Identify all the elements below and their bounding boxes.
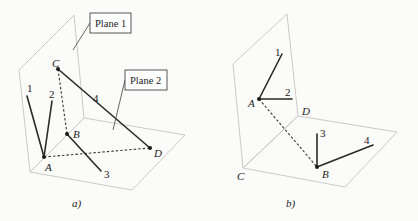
label-d: D [153,147,162,159]
point-d [148,146,152,150]
line-2 [44,101,52,157]
label-line-4: 4 [93,92,99,104]
label-line-1-b: 1 [275,46,281,58]
point-a [42,155,46,159]
label-line-3: 3 [104,168,110,180]
label-line-2-b: 2 [285,86,291,98]
dashed-line-a-d [44,148,150,157]
line-1 [27,96,44,157]
diagram-canvas: C B A D 1 2 3 4 Plane 1 Plane 2 a) A B C… [0,0,418,221]
point-a-b [257,97,261,101]
panel-b: A B C D 1 2 3 4 b) [233,14,397,210]
callout-plane-1: Plane 1 [95,18,126,29]
label-a-b: A [247,97,255,109]
line-4-b [317,145,373,167]
label-line-4-b: 4 [364,134,370,146]
caption-a: a) [72,197,82,210]
panel-a: C B A D 1 2 3 4 Plane 1 Plane 2 a) [19,13,185,210]
point-b [65,132,69,136]
callout-plane-2: Plane 2 [130,75,161,86]
label-line-3-b: 3 [320,127,326,139]
label-a: A [44,161,52,173]
label-line-1: 1 [27,82,33,94]
leader-plane-2 [113,80,125,130]
line-1-b [259,54,282,99]
dashed-line-c-b [58,69,67,134]
point-b-b [315,165,319,169]
label-b-b: B [322,168,329,180]
caption-b: b) [286,197,296,210]
label-c: C [52,57,60,69]
label-c-b: C [237,170,245,182]
label-b: B [73,128,80,140]
label-d-b: D [301,105,310,117]
label-line-2: 2 [49,88,55,100]
